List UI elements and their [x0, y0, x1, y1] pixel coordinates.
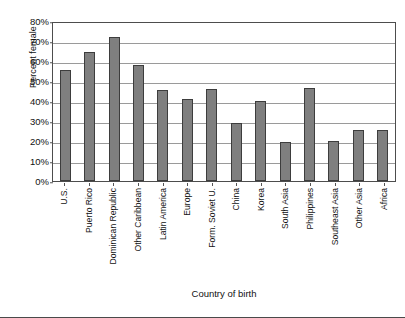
bar[interactable]: [328, 141, 339, 181]
bar-slot: [53, 23, 77, 181]
bar[interactable]: [353, 130, 364, 181]
x-tick-slot: Dominican Republic: [101, 183, 126, 269]
x-tick-slot: Southeast Asia: [322, 183, 347, 269]
x-tick-slot: South Asia: [273, 183, 298, 269]
x-tick-slot: U.S.: [52, 183, 77, 269]
bar-chart-figure: Percent female 80%70%60%50%40%30%20%10%0…: [0, 0, 405, 318]
bar-slot: [151, 23, 175, 181]
bar[interactable]: [84, 52, 95, 181]
x-axis-tick-mark: [89, 183, 90, 186]
x-axis-tick-label: U.S.: [60, 188, 69, 205]
bar-slot: [322, 23, 346, 181]
bar-slot: [102, 23, 126, 181]
bar[interactable]: [60, 70, 71, 181]
x-axis-tick-mark: [261, 183, 262, 186]
y-axis-tick-label: 40%: [30, 97, 49, 107]
y-axis-tick-label: 30%: [30, 117, 49, 127]
x-axis-tick-mark: [163, 183, 164, 186]
x-axis-tick-label: Philippines: [306, 188, 315, 230]
bar-slot: [273, 23, 297, 181]
x-tick-slot: Europe: [175, 183, 200, 269]
bar-slot: [346, 23, 370, 181]
x-axis-tick-label: Dominican Republic: [109, 188, 118, 264]
x-tick-slot: Philippines: [298, 183, 323, 269]
y-axis-tick-label: 10%: [30, 157, 49, 167]
bar[interactable]: [206, 89, 217, 181]
bar[interactable]: [182, 99, 193, 181]
bar[interactable]: [377, 130, 388, 181]
y-axis-tick-label: 60%: [30, 57, 49, 67]
bar[interactable]: [304, 88, 315, 181]
x-axis-tick-label: Form. Soviet U.: [207, 188, 216, 248]
bar[interactable]: [280, 142, 291, 181]
x-tick-slot: Form. Soviet U.: [199, 183, 224, 269]
y-axis-tick-labels: 80%70%60%50%40%30%20%10%0%: [0, 22, 52, 182]
x-axis-tick-mark: [187, 183, 188, 186]
x-tick-slot: China: [224, 183, 249, 269]
bar-slot: [126, 23, 150, 181]
x-axis-tick-mark: [64, 183, 65, 186]
x-axis-tick-mark: [335, 183, 336, 186]
x-axis-tick-label: Other Asia: [355, 188, 364, 228]
x-axis-tick-mark: [285, 183, 286, 186]
x-axis-tick-label: Southeast Asia: [330, 188, 339, 245]
bar-slot: [297, 23, 321, 181]
bar-slot: [370, 23, 394, 181]
bar[interactable]: [109, 37, 120, 181]
x-tick-slot: Africa: [372, 183, 397, 269]
bar-slot: [77, 23, 101, 181]
bar-slot: [224, 23, 248, 181]
bar-slot: [200, 23, 224, 181]
x-axis-tick-label: Korea: [257, 188, 266, 211]
x-tick-slot: Korea: [249, 183, 274, 269]
x-axis-tick-label: South Asia: [281, 188, 290, 229]
x-tick-slot: Puerto Rico: [77, 183, 102, 269]
bar-series: [53, 23, 395, 181]
x-axis-tick-mark: [212, 183, 213, 186]
x-axis-tick-label: Latin America: [158, 188, 167, 240]
x-axis-tick-label: Puerto Rico: [85, 188, 94, 233]
x-tick-slot: Latin America: [150, 183, 175, 269]
x-axis-tick-labels: U.S.Puerto RicoDominican RepublicOther C…: [52, 183, 396, 269]
x-tick-slot: Other Caribbean: [126, 183, 151, 269]
x-axis-title: Country of birth: [52, 288, 396, 299]
x-axis-tick-label: Africa: [380, 188, 389, 210]
x-axis-tick-mark: [310, 183, 311, 186]
y-axis-tick-label: 50%: [30, 77, 49, 87]
x-tick-slot: Other Asia: [347, 183, 372, 269]
x-axis-tick-mark: [359, 183, 360, 186]
y-axis-tick-label: 20%: [30, 137, 49, 147]
y-axis-tick-label: 80%: [30, 17, 49, 27]
x-axis-tick-label: Other Caribbean: [134, 188, 143, 252]
bar-slot: [175, 23, 199, 181]
x-axis-tick-mark: [236, 183, 237, 186]
bar[interactable]: [133, 65, 144, 181]
x-axis-tick-mark: [138, 183, 139, 186]
plot-area: [52, 22, 396, 182]
y-axis-tick-label: 70%: [30, 37, 49, 47]
bar[interactable]: [231, 123, 242, 181]
y-axis-tick-label: 0%: [35, 177, 49, 187]
bar[interactable]: [157, 90, 168, 181]
x-axis-tick-mark: [113, 183, 114, 186]
x-axis-tick-label: China: [232, 188, 241, 210]
x-axis-tick-label: Europe: [183, 188, 192, 216]
x-axis-tick-mark: [384, 183, 385, 186]
bar[interactable]: [255, 101, 266, 181]
bar-slot: [248, 23, 272, 181]
